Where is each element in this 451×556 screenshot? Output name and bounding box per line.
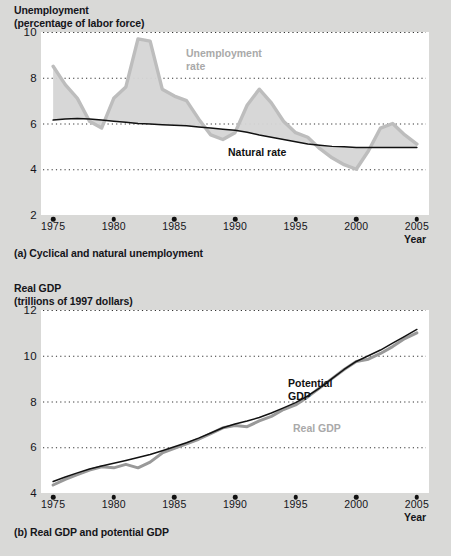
x-tick-1990: 1990 (223, 498, 247, 510)
panel-b-caption: (b) Real GDP and potential GDP (14, 526, 169, 538)
panel-a-y-tick-labels: 246810 (0, 0, 40, 215)
x-tick-2000: 2000 (344, 498, 368, 510)
x-tick-2000: 2000 (344, 220, 368, 232)
x-tick-1975: 1975 (41, 220, 65, 232)
panel-b-plot-area (41, 310, 429, 493)
panel-b-svg (41, 310, 429, 493)
x-tick-1985: 1985 (162, 498, 186, 510)
y-tick-12: 12 (24, 304, 37, 316)
x-tick-1980: 1980 (102, 498, 126, 510)
y-tick-6: 6 (30, 118, 37, 130)
x-tick-1990: 1990 (223, 220, 247, 232)
figure-page: Unemployment(percentage of labor force) … (0, 0, 451, 556)
y-tick-8: 8 (30, 72, 37, 84)
y-tick-10: 10 (24, 350, 37, 362)
panel-b-label-real-gdp: Real GDP (293, 422, 341, 435)
panel-unemployment: Unemployment(percentage of labor force) … (0, 0, 451, 278)
panel-b-label-potential-gdp: Potential GDP (288, 377, 332, 402)
x-tick-1995: 1995 (284, 498, 308, 510)
y-tick-6: 6 (30, 441, 37, 453)
y-tick-8: 8 (30, 396, 37, 408)
panel-b-y-tick-labels: 4681012 (0, 278, 40, 493)
x-tick-1975: 1975 (41, 498, 65, 510)
panel-a-label-natural-rate: Natural rate (228, 146, 286, 159)
panel-a-caption: (a) Cyclical and natural unemployment (14, 247, 203, 259)
x-tick-1995: 1995 (284, 220, 308, 232)
y-tick-4: 4 (30, 163, 37, 175)
panel-b-x-axis-label: Year (404, 511, 426, 523)
x-tick-2005: 2005 (405, 220, 429, 232)
x-tick-2005: 2005 (405, 498, 429, 510)
x-tick-1985: 1985 (162, 220, 186, 232)
panel-a-x-axis-label: Year (404, 233, 426, 245)
panel-real-gdp: Real GDP(trillions of 1997 dollars) 4681… (0, 278, 451, 556)
x-tick-1980: 1980 (102, 220, 126, 232)
panel-a-label-unemployment-rate: Unemployment rate (186, 47, 262, 72)
y-tick-10: 10 (24, 26, 37, 38)
